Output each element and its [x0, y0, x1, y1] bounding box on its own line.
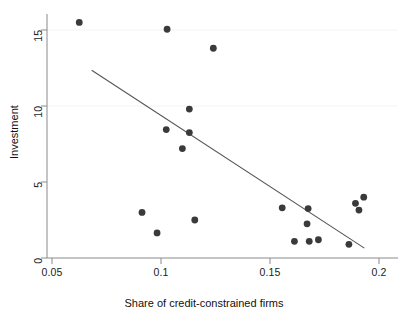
- data-point: [179, 145, 186, 152]
- data-point: [315, 236, 322, 243]
- x-axis-ticks: [52, 258, 379, 264]
- x-tick-label-1: 0.1: [154, 266, 169, 278]
- data-point: [352, 200, 359, 207]
- y-tick-label-0: 0: [32, 258, 44, 264]
- x-tick-label-0: 0.05: [42, 266, 63, 278]
- data-point: [304, 220, 311, 227]
- y-tick-label-2: 10: [32, 106, 44, 118]
- data-point: [360, 194, 367, 201]
- x-tick-label-3: 0.2: [372, 266, 387, 278]
- y-axis-title: Investment: [8, 143, 20, 159]
- data-point: [164, 26, 171, 33]
- data-point: [186, 106, 193, 113]
- data-point: [186, 129, 193, 136]
- data-point: [279, 204, 286, 211]
- grid-lines: [47, 30, 398, 106]
- axis-lines: [47, 14, 398, 258]
- y-axis-ticks: [41, 30, 47, 258]
- y-axis-title-wrap: Investment: [6, 0, 22, 313]
- data-point: [346, 241, 353, 248]
- data-point: [291, 238, 298, 245]
- data-point: [306, 238, 313, 245]
- y-tick-label-1: 5: [32, 182, 44, 188]
- data-point: [305, 205, 312, 212]
- data-point: [163, 126, 170, 133]
- data-point: [356, 207, 363, 214]
- data-points-group: [76, 19, 367, 248]
- data-point: [139, 209, 146, 216]
- x-tick-label-2: 0.15: [260, 266, 281, 278]
- data-point: [154, 230, 161, 237]
- regression-line: [92, 70, 365, 248]
- scatter-plot-figure: 0.05 0.1 0.15 0.2 15 10 5 0 Share of cre…: [0, 0, 408, 313]
- data-point: [76, 19, 83, 26]
- data-point: [191, 217, 198, 224]
- data-point: [210, 45, 217, 52]
- y-tick-label-3: 15: [32, 30, 44, 42]
- x-axis-title: Share of credit-constrained firms: [0, 297, 408, 309]
